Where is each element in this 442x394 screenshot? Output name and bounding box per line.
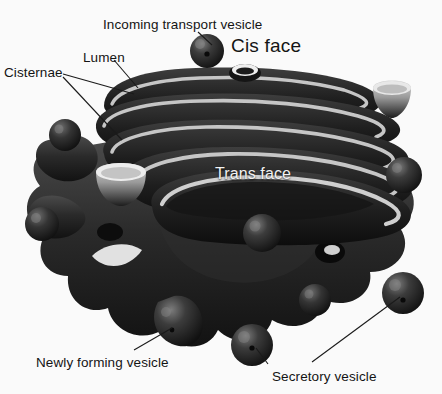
secretory-vesicle-right-shape: [382, 272, 424, 314]
label-cis-face: Cis face: [231, 36, 301, 55]
secretory-vesicle-left-shape: [231, 324, 273, 366]
budding-vesicle-right: [386, 157, 422, 193]
budding-vesicle-left-upper: [49, 119, 81, 151]
label-newly-forming-vesicle: Newly forming vesicle: [36, 356, 169, 370]
incoming-transport-vesicle-shape: [190, 34, 224, 68]
budding-vesicle-bottom-mid: [299, 284, 331, 316]
label-trans-face: Trans face: [215, 166, 291, 182]
budding-vesicle-center: [243, 214, 281, 252]
golgi-artwork: [0, 0, 442, 394]
label-lumen: Lumen: [83, 51, 125, 65]
label-incoming-transport-vesicle: Incoming transport vesicle: [103, 18, 262, 32]
cis-face-pore-ring: [229, 64, 261, 82]
golgi-apparatus-figure: Incoming transport vesicle Cis face Lume…: [0, 0, 442, 394]
budding-vesicle-left-lower: [25, 207, 59, 241]
label-cisternae: Cisternae: [4, 66, 63, 80]
label-secretory-vesicle: Secretory vesicle: [272, 370, 377, 384]
